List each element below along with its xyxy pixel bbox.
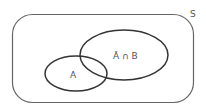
set-A-label: A [70, 70, 77, 80]
universe-label: S [190, 9, 196, 19]
venn-diagram: S A Ā ∩ B [0, 0, 206, 109]
universe-set-S [13, 15, 194, 103]
not-A-intersect-B-label: Ā ∩ B [113, 51, 138, 61]
